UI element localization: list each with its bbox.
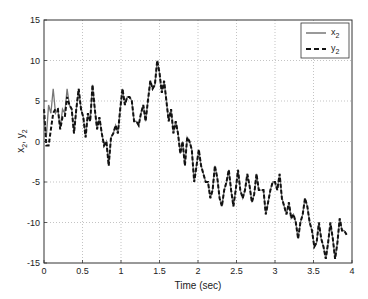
x-tick-label: 3	[272, 266, 277, 276]
x-axis-label: Time (sec)	[175, 280, 222, 291]
series-layer	[44, 61, 347, 259]
y-tick-label: 5	[35, 96, 40, 106]
y-tick-label: 0	[35, 137, 40, 147]
legend-box	[301, 23, 349, 58]
x-tick-label: 1.5	[153, 266, 166, 276]
y-axis-label-sep: , y	[15, 133, 26, 144]
x-tick-label: 4	[349, 266, 354, 276]
y-axis-label-sub2: 2	[21, 129, 28, 133]
x-tick-label: 2	[195, 266, 200, 276]
series-line-x2	[44, 61, 347, 259]
y-tick-label: 15	[30, 15, 40, 25]
x-tick-label: 0	[41, 266, 46, 276]
y-tick-label: -15	[27, 258, 40, 268]
y-tick-label: 10	[30, 56, 40, 66]
x-tick-label: 1	[118, 266, 123, 276]
y-axis-label: x2, y2	[15, 129, 28, 152]
x-axis-ticks: 00.511.522.533.54	[41, 260, 354, 276]
x-tick-label: 3.5	[307, 266, 320, 276]
x-tick-label: 2.5	[230, 266, 243, 276]
y-tick-label: -5	[32, 177, 40, 187]
legend: x2 y2	[301, 23, 349, 58]
line-chart: 00.511.522.533.54 -15-10-5051015 Time (s…	[0, 0, 368, 299]
x-tick-label: 0.5	[76, 266, 89, 276]
series-line-y2	[44, 61, 347, 259]
y-tick-label: -10	[27, 218, 40, 228]
